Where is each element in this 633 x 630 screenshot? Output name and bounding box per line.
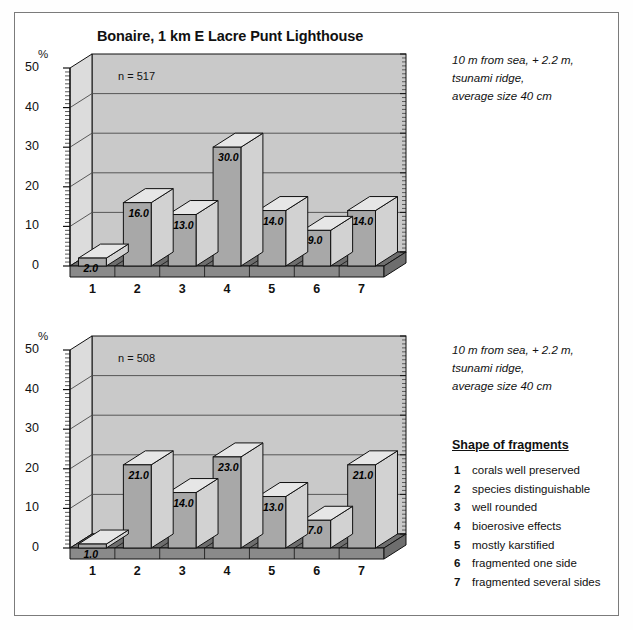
x-axis-label-7: 7 — [350, 565, 374, 578]
x-axis-label-5: 5 — [260, 283, 284, 296]
legend-item-label: fragmented several sides — [469, 573, 600, 592]
legend-title: Shape of fragments — [452, 438, 627, 452]
x-axis-label-5: 5 — [260, 565, 284, 578]
legend-item-number: 3 — [452, 498, 469, 517]
x-axis-label-2: 2 — [125, 283, 149, 296]
legend-item-number: 7 — [452, 573, 469, 592]
bar-value-label-7: 14.0 — [353, 215, 373, 227]
bar-7 — [348, 451, 398, 548]
x-axis-label-4: 4 — [215, 565, 239, 578]
y-axis-label-50: 50 — [13, 343, 39, 356]
bar-value-label-1: 1.0 — [84, 548, 99, 560]
legend-item-label: corals well preserved — [469, 461, 580, 480]
chart-left-wall — [70, 336, 92, 548]
chart-svg-bottom — [44, 334, 412, 576]
annotation-bottom-line-3: average size 40 cm — [452, 378, 574, 396]
x-axis-label-1: 1 — [80, 565, 104, 578]
bar-value-label-2: 16.0 — [128, 207, 148, 219]
bar-value-label-5: 14.0 — [263, 215, 283, 227]
bar-2 — [123, 451, 173, 548]
bar-2 — [123, 189, 173, 266]
figure-page: Bonaire, 1 km E Lacre Punt Lighthouse % … — [0, 0, 633, 630]
legend-item-number: 1 — [452, 461, 469, 480]
y-axis-label-10: 10 — [13, 219, 39, 232]
y-axis-label-20: 20 — [13, 462, 39, 475]
y-axis-label-0: 0 — [13, 541, 39, 554]
x-axis-label-7: 7 — [350, 283, 374, 296]
legend-item-label: species distinguishable — [469, 480, 590, 499]
bar-value-label-5: 13.0 — [263, 501, 283, 513]
bar-value-label-3: 14.0 — [173, 497, 193, 509]
annotation-top-line-2: tsunami ridge, — [452, 70, 574, 88]
y-axis-label-10: 10 — [13, 501, 39, 514]
legend: Shape of fragments 1corals well preserve… — [452, 438, 627, 591]
bar-value-label-3: 13.0 — [173, 219, 193, 231]
x-axis-label-2: 2 — [125, 565, 149, 578]
bar-value-label-1: 2.0 — [84, 262, 99, 274]
bar-side-face — [241, 133, 263, 266]
annotation-bottom: 10 m from sea, + 2.2 m,tsunami ridge,ave… — [452, 342, 574, 395]
x-axis-label-4: 4 — [215, 283, 239, 296]
legend-item-label: bioerosive effects — [469, 517, 561, 536]
x-axis-label-3: 3 — [170, 283, 194, 296]
legend-item-5: 5mostly karstified — [452, 536, 627, 555]
legend-item-label: well rounded — [469, 498, 537, 517]
annotation-top: 10 m from sea, + 2.2 m,tsunami ridge,ave… — [452, 52, 574, 105]
bar-value-label-4: 30.0 — [218, 151, 238, 163]
annotation-top-line-3: average size 40 cm — [452, 88, 574, 106]
legend-item-1: 1corals well preserved — [452, 461, 627, 480]
legend-item-label: mostly karstified — [469, 536, 554, 555]
x-axis-label-3: 3 — [170, 565, 194, 578]
bar-4 — [213, 443, 263, 548]
bar-side-face — [241, 443, 263, 548]
sample-size-label: n = 517 — [118, 70, 155, 82]
chart-svg-top — [44, 52, 412, 294]
bar-value-label-4: 23.0 — [218, 461, 238, 473]
legend-item-7: 7fragmented several sides — [452, 573, 627, 592]
annotation-bottom-line-1: 10 m from sea, + 2.2 m, — [452, 342, 574, 360]
y-axis-label-0: 0 — [13, 259, 39, 272]
y-axis-label-40: 40 — [13, 383, 39, 396]
y-axis-label-30: 30 — [13, 140, 39, 153]
x-axis-label-6: 6 — [305, 565, 329, 578]
bar-value-label-6: 7.0 — [308, 524, 323, 536]
chart-floor-front — [70, 266, 384, 277]
bar-value-label-7: 21.0 — [353, 469, 373, 481]
bar-side-face — [151, 451, 173, 548]
legend-item-number: 6 — [452, 554, 469, 573]
bar-value-label-6: 9.0 — [308, 234, 323, 246]
chart-floor-front — [70, 548, 384, 559]
x-axis-label-6: 6 — [305, 283, 329, 296]
bar-5 — [258, 483, 308, 548]
bar-side-face — [375, 451, 397, 548]
legend-item-3: 3well rounded — [452, 498, 627, 517]
plot-area-bottom: 010203040501234567n = 50821.07.013.023.0… — [44, 334, 412, 576]
legend-item-4: 4bioerosive effects — [452, 517, 627, 536]
legend-item-number: 2 — [452, 480, 469, 499]
y-axis-label-30: 30 — [13, 422, 39, 435]
legend-item-6: 6fragmented one side — [452, 554, 627, 573]
bar-3 — [168, 201, 218, 266]
x-axis-label-1: 1 — [80, 283, 104, 296]
legend-rows: 1corals well preserved2species distingui… — [452, 461, 627, 591]
bar-3 — [168, 479, 218, 548]
legend-item-label: fragmented one side — [469, 554, 577, 573]
chart-left-wall — [70, 54, 92, 266]
annotation-top-line-1: 10 m from sea, + 2.2 m, — [452, 52, 574, 70]
y-axis-label-20: 20 — [13, 180, 39, 193]
bar-5 — [258, 197, 308, 266]
legend-item-2: 2species distinguishable — [452, 480, 627, 499]
bar-7 — [348, 197, 398, 266]
plot-area-top: 010203040501234567n = 51714.09.014.030.0… — [44, 52, 412, 294]
y-axis-label-40: 40 — [13, 101, 39, 114]
legend-item-number: 5 — [452, 536, 469, 555]
annotation-bottom-line-2: tsunami ridge, — [452, 360, 574, 378]
bar-value-label-2: 21.0 — [128, 469, 148, 481]
page-title: Bonaire, 1 km E Lacre Punt Lighthouse — [60, 28, 400, 44]
y-axis-label-50: 50 — [13, 61, 39, 74]
legend-item-number: 4 — [452, 517, 469, 536]
sample-size-label: n = 508 — [118, 352, 155, 364]
